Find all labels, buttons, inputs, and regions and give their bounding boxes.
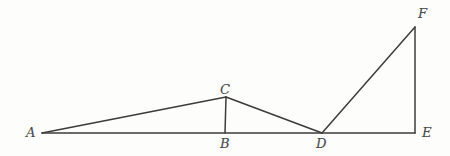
vertex-label-b: B (220, 137, 230, 150)
segment-c-to-d (226, 97, 322, 133)
figure-line-drawing (0, 0, 450, 156)
segment-a-to-c (42, 97, 226, 133)
geometry-figure: ABCDEF (0, 0, 450, 156)
segment-d-to-f (322, 27, 415, 133)
vertex-label-d: D (316, 137, 326, 150)
vertex-label-a: A (26, 126, 35, 139)
vertex-label-f: F (418, 7, 427, 20)
altitude-segment-b-to-c (225, 97, 226, 133)
vertex-label-c: C (220, 83, 230, 96)
vertex-label-e: E (422, 126, 432, 139)
